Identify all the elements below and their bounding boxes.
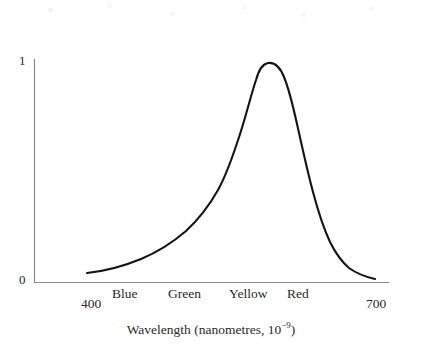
x-axis-title: Wavelength (nanometres, 10−9) xyxy=(0,320,422,338)
y-axis-max-label: 1 xyxy=(19,53,26,69)
band-label-red: Red xyxy=(287,286,309,302)
luminosity-curve-chart xyxy=(0,0,422,350)
data-curve-relative-sensitivity xyxy=(87,63,375,279)
band-label-yellow: Yellow xyxy=(229,286,267,302)
x-axis-title-exponent: −9 xyxy=(281,320,291,330)
x-axis-title-main: Wavelength (nanometres, 10 xyxy=(127,322,282,337)
y-axis-min-label: 0 xyxy=(19,272,26,288)
x-axis-tick-label-700: 700 xyxy=(366,296,386,312)
band-label-blue: Blue xyxy=(112,286,138,302)
x-axis-title-tail: ) xyxy=(291,322,296,337)
band-label-green: Green xyxy=(168,286,201,302)
x-axis-tick-label-400: 400 xyxy=(81,296,101,312)
